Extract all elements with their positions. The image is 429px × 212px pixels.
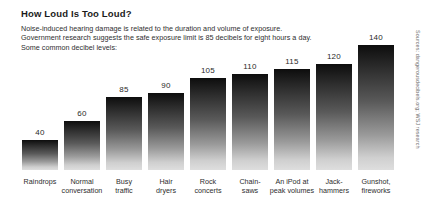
bar-category-label-line: Chain- <box>239 177 260 186</box>
bar <box>148 93 184 171</box>
bar-value-label: 40 <box>35 128 45 137</box>
source-label: Sources: dangerousdecibels.org; WSJ rese… <box>415 30 421 149</box>
bar-category-label-line: conversation <box>62 186 103 195</box>
bar <box>190 78 226 170</box>
bar-category-label-line: saws <box>239 186 260 195</box>
bar <box>64 121 100 170</box>
bar-category-label-line: An iPod at <box>270 177 314 186</box>
bar-category-label: Chain-saws <box>239 177 260 195</box>
bar-group: 110Chain-saws <box>232 74 268 171</box>
bar-category-label: Normalconversation <box>62 177 103 195</box>
bar-category-label-line: Hair <box>156 177 176 186</box>
bar-category-label-line: fireworks <box>361 186 390 195</box>
bar-value-label: 105 <box>201 66 215 75</box>
bar-category-label: Hairdryers <box>156 177 176 195</box>
bar-value-label: 115 <box>285 57 299 66</box>
bar-group: 120Jack-hammers <box>316 64 352 170</box>
bar-value-label: 90 <box>161 81 171 90</box>
bar-category-label-line: hammers <box>319 186 349 195</box>
bar-category-label: Gunshot,fireworks <box>361 177 390 195</box>
bar-category-label-line: Raindrops <box>24 177 57 186</box>
bar-category-label-line: dryers <box>156 186 176 195</box>
bar-category-label-line: Jack- <box>319 177 349 186</box>
bar-value-label: 85 <box>119 85 129 94</box>
bar-group: 40Raindrops <box>22 140 58 170</box>
bar-group: 90Hairdryers <box>148 93 184 171</box>
bar-category-label-line: Gunshot, <box>361 177 390 186</box>
bar-category-label-line: peak volumes <box>270 186 314 195</box>
bar-value-label: 140 <box>369 33 383 42</box>
bar-category-label: Jack-hammers <box>319 177 349 195</box>
bar-group: 140Gunshot,fireworks <box>358 45 394 170</box>
bar-category-label-line: concerts <box>194 186 221 195</box>
bar-value-label: 120 <box>327 52 341 61</box>
bar-category-label: Raindrops <box>24 177 57 186</box>
bar-group: 85Busytraffic <box>106 97 142 170</box>
bar-group: 105Rockconcerts <box>190 78 226 170</box>
bar-category-label-line: Normal <box>62 177 103 186</box>
decibel-bar-chart-figure: How Loud Is Too Loud? Noise-induced hear… <box>0 0 429 212</box>
bar-group: 115An iPod atpeak volumes <box>274 69 310 170</box>
bar-group: 60Normalconversation <box>64 121 100 170</box>
bar <box>22 140 58 170</box>
bar-value-label: 110 <box>243 62 257 71</box>
bar-category-label: Busytraffic <box>115 177 132 195</box>
plot-area: 40Raindrops60Normalconversation85Busytra… <box>0 0 429 212</box>
bar-category-label: An iPod atpeak volumes <box>270 177 314 195</box>
bar-category-label-line: Rock <box>194 177 221 186</box>
bar <box>274 69 310 170</box>
bar-category-label-line: Busy <box>115 177 132 186</box>
bar <box>358 45 394 170</box>
bar-category-label-line: traffic <box>115 186 132 195</box>
bar-value-label: 60 <box>77 109 87 118</box>
bar <box>316 64 352 170</box>
source-note: Sources: dangerousdecibels.org; WSJ rese… <box>416 30 426 150</box>
bar <box>106 97 142 170</box>
bar <box>232 74 268 171</box>
bar-category-label: Rockconcerts <box>194 177 221 195</box>
